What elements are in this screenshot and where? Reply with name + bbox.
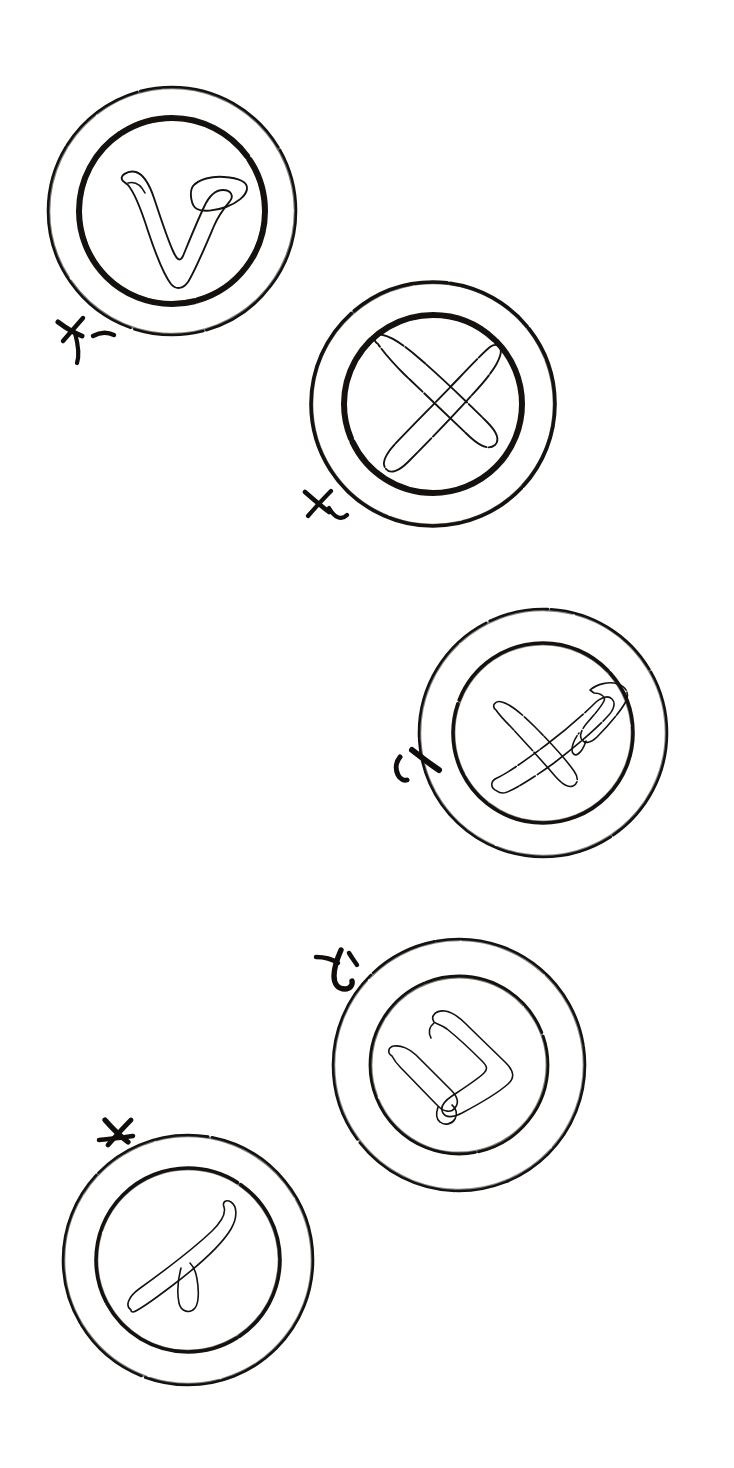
plate-canvas: Plate of circular seal impressions Five …: [0, 0, 734, 1468]
plate-drawing: [0, 0, 734, 1468]
plate-background: [0, 0, 734, 1468]
